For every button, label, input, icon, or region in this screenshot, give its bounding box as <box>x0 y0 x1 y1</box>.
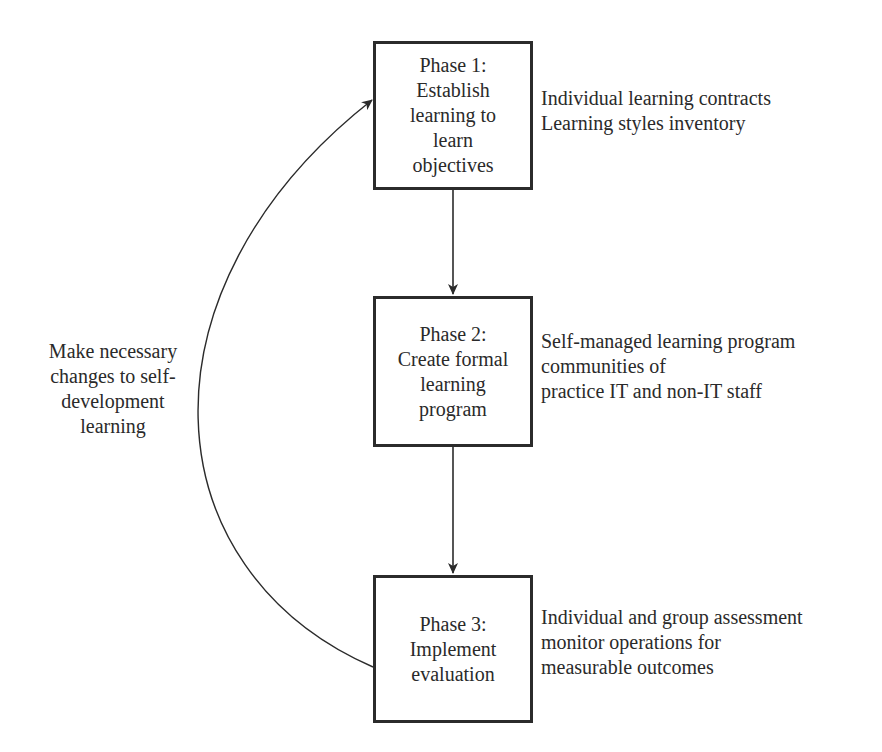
phase-2-note: Self-managed learning program <box>541 329 795 354</box>
feedback-label: Make necessary changes to self- developm… <box>28 339 198 439</box>
phase-1-notes: Individual learning contracts Learning s… <box>541 86 771 136</box>
phase-3-note: measurable outcomes <box>541 655 803 680</box>
phase-1-note: Learning styles inventory <box>541 111 771 136</box>
phase-1-text: objectives <box>412 153 493 178</box>
phase-1-box: Phase 1: Establish learning to learn obj… <box>373 41 533 190</box>
feedback-label-line: development <box>28 389 198 414</box>
phase-3-note: Individual and group assessment <box>541 605 803 630</box>
phase-3-notes: Individual and group assessment monitor … <box>541 605 803 680</box>
phase-3-box: Phase 3: Implement evaluation <box>373 575 533 723</box>
phase-2-title: Phase 2: <box>419 322 486 347</box>
phase-2-note: communities of <box>541 354 795 379</box>
phase-2-box: Phase 2: Create formal learning program <box>373 296 533 447</box>
phase-1-text: learning to <box>410 103 496 128</box>
phase-2-text: Create formal <box>398 347 509 372</box>
phase-1-text: learn <box>433 128 473 153</box>
feedback-curve-arrow <box>198 100 373 667</box>
phase-1-text: Establish <box>416 78 489 103</box>
phase-3-text: Implement <box>410 637 497 662</box>
feedback-label-line: Make necessary <box>28 339 198 364</box>
phase-1-note: Individual learning contracts <box>541 86 771 111</box>
feedback-label-line: learning <box>28 414 198 439</box>
phase-2-note: practice IT and non-IT staff <box>541 379 795 404</box>
phase-3-text: evaluation <box>411 662 494 687</box>
phase-3-note: monitor operations for <box>541 630 803 655</box>
phase-1-title: Phase 1: <box>419 53 486 78</box>
phase-2-text: program <box>419 397 487 422</box>
phase-cycle-diagram: Phase 1: Establish learning to learn obj… <box>0 0 882 752</box>
phase-2-notes: Self-managed learning program communitie… <box>541 329 795 404</box>
phase-2-text: learning <box>420 372 486 397</box>
phase-3-title: Phase 3: <box>419 612 486 637</box>
feedback-label-line: changes to self- <box>28 364 198 389</box>
